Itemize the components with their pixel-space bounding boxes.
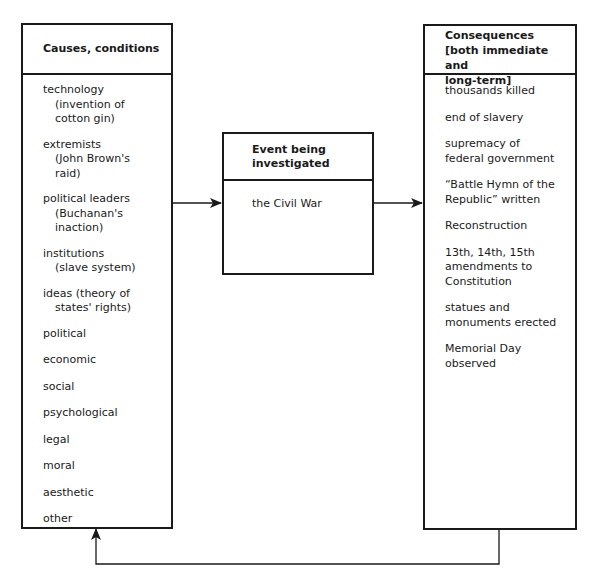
- consequence-line: 13th, 14th, 15th: [445, 246, 535, 261]
- cause-label: legal: [43, 433, 70, 446]
- cause-item: political: [43, 327, 86, 342]
- event-value: the Civil War: [252, 197, 322, 212]
- cause-item: economic: [43, 353, 96, 368]
- cause-item: psychological: [43, 406, 118, 421]
- consequence-line: statues and: [445, 301, 556, 316]
- cause-label: extremists: [43, 138, 101, 151]
- cause-item: ideas (theory ofstates' rights): [43, 287, 131, 316]
- cause-item: legal: [43, 433, 70, 448]
- consequences-box: Consequences [both immediate and long-te…: [423, 24, 577, 530]
- cause-item: extremists(John Brown'sraid): [43, 138, 130, 182]
- cause-detail: states' rights): [43, 301, 131, 316]
- causes-header: Causes, conditions: [23, 25, 171, 75]
- consequence-line: Republic” written: [445, 193, 555, 208]
- consequence-item: Reconstruction: [445, 219, 527, 234]
- cause-label: psychological: [43, 406, 118, 419]
- consequence-item: thousands killed: [445, 84, 535, 99]
- cause-label: political: [43, 327, 86, 340]
- consequence-item: Memorial Dayobserved: [445, 342, 521, 371]
- consequence-line: monuments erected: [445, 316, 556, 331]
- causes-box: Causes, conditions technology(invention …: [21, 23, 173, 529]
- consequence-line: “Battle Hymn of the: [445, 178, 555, 193]
- cause-label: technology: [43, 83, 104, 96]
- consequence-line: Memorial Day: [445, 342, 521, 357]
- consequences-title: Consequences [both immediate and long-te…: [445, 28, 575, 88]
- cause-detail: raid): [43, 167, 130, 182]
- consequence-line: federal government: [445, 152, 554, 167]
- consequence-line: supremacy of: [445, 137, 554, 152]
- consequence-item: end of slavery: [445, 111, 523, 126]
- consequence-line: amendments to: [445, 260, 535, 275]
- consequence-line: observed: [445, 357, 521, 372]
- cause-item: moral: [43, 459, 75, 474]
- consequence-line: thousands killed: [445, 84, 535, 99]
- cause-detail: inaction): [43, 221, 130, 236]
- causes-title: Causes, conditions: [43, 42, 159, 56]
- consequence-line: end of slavery: [445, 111, 523, 126]
- event-box: Event being investigated the Civil War: [222, 132, 374, 275]
- cause-detail: (slave system): [43, 261, 136, 276]
- cause-detail: (Buchanan's: [43, 207, 130, 222]
- cause-item: other: [43, 512, 72, 527]
- consequences-header: Consequences [both immediate and long-te…: [425, 26, 575, 75]
- cause-item: technology(invention ofcotton gin): [43, 83, 125, 127]
- cause-item: institutions(slave system): [43, 247, 136, 276]
- consequence-item: “Battle Hymn of theRepublic” written: [445, 178, 555, 207]
- event-header: Event being investigated: [224, 134, 372, 181]
- cause-item: political leaders(Buchanan'sinaction): [43, 192, 130, 236]
- cause-detail: (John Brown's: [43, 152, 130, 167]
- consequence-line: Reconstruction: [445, 219, 527, 234]
- cause-label: economic: [43, 353, 96, 366]
- consequence-item: 13th, 14th, 15thamendments toConstitutio…: [445, 246, 535, 290]
- cause-item: social: [43, 380, 74, 395]
- cause-label: aesthetic: [43, 486, 94, 499]
- event-title: Event being investigated: [252, 143, 330, 171]
- cause-item: aesthetic: [43, 486, 94, 501]
- cause-label: moral: [43, 459, 75, 472]
- consequence-line: Constitution: [445, 275, 535, 290]
- consequence-item: supremacy offederal government: [445, 137, 554, 166]
- consequence-item: statues andmonuments erected: [445, 301, 556, 330]
- cause-detail: cotton gin): [43, 112, 125, 127]
- arrow-feedback-loop: [96, 528, 499, 564]
- cause-label: social: [43, 380, 74, 393]
- cause-label: political leaders: [43, 192, 130, 205]
- cause-label: other: [43, 512, 72, 525]
- cause-detail: (invention of: [43, 98, 125, 113]
- cause-label: ideas (theory of: [43, 287, 130, 300]
- cause-label: institutions: [43, 247, 104, 260]
